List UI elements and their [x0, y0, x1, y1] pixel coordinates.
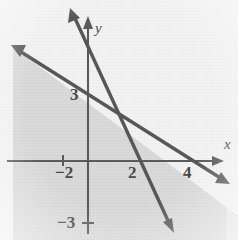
x-tick-label-2: 2	[128, 163, 137, 183]
x-tick-label-neg2: −2	[55, 163, 73, 183]
graph-canvas	[0, 0, 238, 240]
coordinate-graph-figure: y x −2 2 4 3 −3	[0, 0, 238, 240]
x-axis-arrowhead	[212, 156, 224, 166]
y-axis-label: y	[95, 20, 102, 37]
x-tick-label-4: 4	[183, 163, 192, 183]
y-tick-label-3: 3	[70, 85, 79, 105]
shaded-region-path-soft	[13, 47, 238, 240]
solution-region-shading	[13, 47, 238, 240]
steep-line-arrowhead-top	[68, 8, 80, 23]
y-axis-arrowhead	[83, 16, 93, 29]
x-axis-label: x	[224, 136, 231, 153]
y-tick-label-neg3: −3	[57, 213, 75, 233]
